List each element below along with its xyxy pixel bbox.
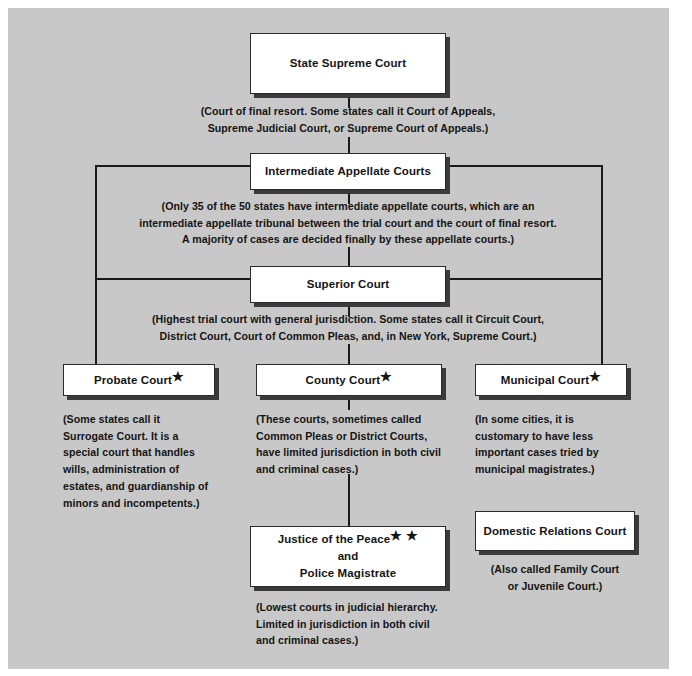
note-probate-court: (Some states call it Surrogate Court. It… bbox=[63, 411, 253, 511]
node-label: Probate Court bbox=[94, 374, 172, 386]
node-label: Municipal Court bbox=[501, 374, 589, 386]
node-label-line3: Police Magistrate bbox=[300, 565, 396, 582]
node-label: Intermediate Appellate Courts bbox=[265, 163, 431, 180]
node-label: State Supreme Court bbox=[290, 55, 406, 72]
node-municipal-court[interactable]: Municipal Court★ bbox=[475, 364, 627, 396]
footnote-marker-icon: ★ bbox=[589, 369, 601, 384]
connector-note-to-intermediate bbox=[348, 137, 350, 153]
note-state-supreme-court: (Court of final resort. Some states call… bbox=[160, 103, 536, 136]
court-system-diagram: State Supreme Court Intermediate Appella… bbox=[8, 8, 669, 669]
connector-note-to-superior bbox=[348, 247, 350, 266]
connector-note-to-county bbox=[348, 344, 350, 364]
connector-intermediate-left-horizontal bbox=[95, 165, 250, 167]
node-state-supreme-court[interactable]: State Supreme Court bbox=[250, 33, 446, 94]
footnote-marker-icon: ★ bbox=[172, 369, 184, 384]
node-label: Domestic Relations Court bbox=[484, 523, 627, 540]
footnote-marker-icon: ★ ★ bbox=[390, 528, 418, 543]
node-justice-of-the-peace[interactable]: Justice of the Peace★ ★ and Police Magis… bbox=[250, 526, 446, 587]
connector-superior-left-horizontal bbox=[95, 278, 250, 280]
note-municipal-court: (In some cities, it is customary to have… bbox=[475, 411, 655, 478]
node-intermediate-appellate-courts[interactable]: Intermediate Appellate Courts bbox=[250, 153, 446, 190]
note-superior-court: (Highest trial court with general jurisd… bbox=[148, 311, 548, 344]
node-label: County Court bbox=[306, 374, 381, 386]
note-intermediate-appellate-courts: (Only 35 of the 50 states have intermedi… bbox=[118, 198, 578, 248]
node-county-court[interactable]: County Court★ bbox=[256, 364, 442, 396]
note-domestic-relations-court: (Also called Family Court or Juvenile Co… bbox=[475, 561, 635, 594]
footnote-marker-icon: ★ bbox=[380, 369, 392, 384]
note-county-court: (These courts, sometimes called Common P… bbox=[256, 411, 464, 478]
node-label-line1: Justice of the Peace bbox=[278, 533, 391, 545]
node-label: Superior Court bbox=[307, 276, 390, 293]
connector-superior-right-horizontal bbox=[446, 278, 603, 280]
connector-note-to-justice bbox=[348, 474, 350, 526]
node-domestic-relations-court[interactable]: Domestic Relations Court bbox=[475, 511, 635, 551]
connector-intermediate-left-vertical bbox=[95, 165, 97, 364]
connector-intermediate-right-vertical bbox=[601, 165, 603, 364]
connector-intermediate-right-horizontal bbox=[446, 165, 603, 167]
node-probate-court[interactable]: Probate Court★ bbox=[63, 364, 215, 396]
node-superior-court[interactable]: Superior Court bbox=[250, 266, 446, 303]
connector-county-to-note bbox=[348, 396, 350, 410]
node-label-line2: and bbox=[338, 548, 359, 565]
note-justice-of-the-peace: (Lowest courts in judicial hierarchy. Li… bbox=[256, 599, 486, 649]
